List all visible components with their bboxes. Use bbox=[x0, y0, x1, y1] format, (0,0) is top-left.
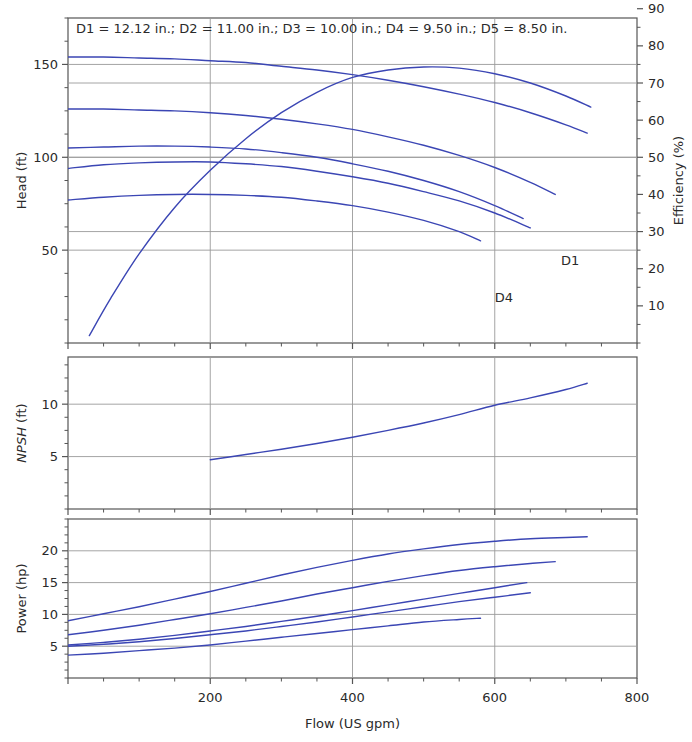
x-tick-label: 600 bbox=[482, 690, 507, 705]
y-tick-label: 150 bbox=[33, 57, 58, 72]
y2-tick-label: 40 bbox=[648, 187, 665, 202]
y2-tick-label: 90 bbox=[648, 1, 665, 16]
y-tick-label: 15 bbox=[41, 575, 58, 590]
pump-performance-figure: 50100150102030405060708090Efficiency (%)… bbox=[0, 0, 692, 742]
y2-axis-title: Efficiency (%) bbox=[671, 136, 686, 225]
curve-d1-power bbox=[68, 537, 587, 621]
curve-d1-head bbox=[68, 57, 587, 133]
y-tick-label: 10 bbox=[41, 397, 58, 412]
y-axis-title: NPSH (ft) bbox=[14, 403, 29, 462]
x-tick-label: 200 bbox=[198, 690, 223, 705]
y-tick-label: 100 bbox=[33, 150, 58, 165]
x-axis-title: Flow (US gpm) bbox=[305, 716, 400, 731]
curve-annotation-d4: D4 bbox=[495, 290, 513, 305]
curve-annotation-d1: D1 bbox=[561, 253, 579, 268]
y2-tick-label: 70 bbox=[648, 76, 665, 91]
y-tick-label: 5 bbox=[50, 639, 58, 654]
curve-d5-power bbox=[68, 618, 481, 655]
y2-tick-label: 30 bbox=[648, 224, 665, 239]
y-tick-label: 5 bbox=[50, 449, 58, 464]
y2-tick-label: 20 bbox=[648, 261, 665, 276]
curve-d5-head bbox=[68, 194, 481, 241]
y-axis-title: Head (ft) bbox=[14, 152, 29, 210]
curve-npsh-required bbox=[210, 383, 587, 460]
y2-tick-label: 10 bbox=[648, 298, 665, 313]
pump-curve-chart: 50100150102030405060708090Efficiency (%)… bbox=[0, 0, 692, 742]
x-tick-label: 800 bbox=[625, 690, 650, 705]
y-axis-title: Power (hp) bbox=[14, 563, 29, 633]
curve-d2-head bbox=[68, 109, 555, 194]
head-efficiency-panel: 50100150102030405060708090Efficiency (%)… bbox=[14, 1, 686, 349]
y-tick-label: 50 bbox=[41, 243, 58, 258]
curve-efficiency bbox=[89, 67, 590, 336]
y2-tick-label: 50 bbox=[648, 150, 665, 165]
y-tick-label: 20 bbox=[41, 543, 58, 558]
npsh-panel: 510NPSH (ft) bbox=[14, 357, 637, 515]
y-tick-label: 10 bbox=[41, 607, 58, 622]
chart-title: D1 = 12.12 in.; D2 = 11.00 in.; D3 = 10.… bbox=[76, 21, 567, 36]
y2-tick-label: 80 bbox=[648, 38, 665, 53]
x-tick-label: 400 bbox=[340, 690, 365, 705]
power-panel: 5101520200400600800Flow (US gpm)Power (h… bbox=[14, 519, 649, 731]
y2-tick-label: 60 bbox=[648, 113, 665, 128]
